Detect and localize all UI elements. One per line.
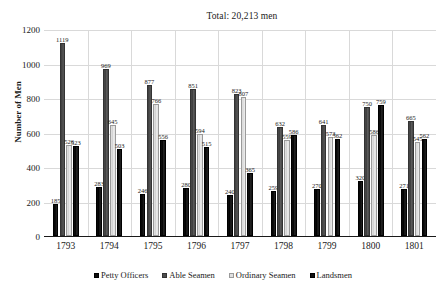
legend-label: Landsmen — [317, 270, 352, 280]
y-tick-label: 200 — [0, 198, 40, 208]
legend-item[interactable]: Landsmen — [310, 270, 352, 280]
bar-value-label: 632 — [275, 120, 285, 128]
bar[interactable]: 759 — [378, 105, 384, 236]
bar-value-label: 594 — [195, 127, 205, 135]
legend-swatch-icon — [162, 273, 167, 278]
bar[interactable]: 283 — [96, 187, 102, 236]
bar-value-label: 750 — [362, 100, 372, 108]
bar[interactable]: 766 — [153, 104, 159, 236]
bar-value-label: 641 — [319, 118, 329, 126]
bar-value-label: 645 — [108, 118, 118, 126]
bar-group-1800: 320750586759 — [349, 30, 393, 236]
bar[interactable]: 523 — [73, 146, 79, 236]
bar[interactable]: 515 — [204, 147, 210, 236]
legend-item[interactable]: Ordinary Seamen — [229, 270, 296, 280]
x-tick-label: 1801 — [405, 241, 424, 251]
bar[interactable]: 259 — [271, 191, 277, 236]
bar[interactable]: 545 — [415, 142, 421, 236]
y-tick-label: 1000 — [0, 60, 40, 70]
bar-group-1801: 271665545562 — [392, 30, 436, 236]
bar[interactable]: 750 — [364, 107, 370, 236]
bar[interactable]: 823 — [234, 94, 240, 236]
y-tick-label: 600 — [0, 129, 40, 139]
x-tick-label: 1795 — [143, 241, 162, 251]
bar[interactable]: 594 — [197, 134, 203, 236]
bar[interactable]: 559 — [284, 140, 290, 236]
legend-swatch-icon — [94, 273, 99, 278]
bar-chart: Total: 20,213 men Number of Men 02004006… — [0, 0, 446, 297]
bar-value-label: 365 — [245, 166, 255, 174]
bar-value-label: 877 — [145, 78, 155, 86]
bar-group-1797: 240823807365 — [218, 30, 262, 236]
y-tick-label: 0 — [0, 232, 40, 242]
bar-value-label: 1119 — [56, 36, 69, 44]
x-tick-label: 1796 — [187, 241, 206, 251]
bar-group-1794: 283969645503 — [88, 30, 132, 236]
bar-value-label: 562 — [420, 132, 430, 140]
bar[interactable]: 365 — [247, 173, 253, 236]
bar[interactable]: 270 — [314, 189, 320, 236]
bar-value-label: 969 — [101, 62, 111, 70]
bar[interactable]: 503 — [117, 149, 123, 236]
bar[interactable]: 271 — [401, 189, 407, 236]
bar-group-1796: 280851594515 — [175, 30, 219, 236]
legend-label: Petty Officers — [101, 270, 148, 280]
plot-area: 1851119526523283969645503246877766556280… — [44, 30, 436, 237]
x-tick-label: 1794 — [100, 241, 119, 251]
x-tick-label: 1799 — [318, 241, 337, 251]
bar-value-label: 807 — [239, 90, 249, 98]
bar[interactable]: 586 — [371, 135, 377, 236]
bar[interactable]: 641 — [321, 125, 327, 236]
bar[interactable]: 185 — [53, 204, 59, 236]
bar-group-1799: 270641573562 — [305, 30, 349, 236]
bar[interactable]: 632 — [277, 127, 283, 236]
x-tick-label: 1797 — [231, 241, 250, 251]
bar[interactable]: 586 — [291, 135, 297, 236]
legend-label: Ordinary Seamen — [236, 270, 296, 280]
bar-group-1793: 1851119526523 — [44, 30, 88, 236]
bar-value-label: 562 — [332, 132, 342, 140]
bar[interactable]: 562 — [422, 139, 428, 236]
bar[interactable]: 556 — [160, 140, 166, 236]
bar-value-label: 665 — [406, 114, 416, 122]
x-axis-ticks: 179317941795179617971798179918001801 — [44, 241, 436, 255]
bar[interactable]: 246 — [140, 194, 146, 236]
bar[interactable]: 969 — [103, 69, 109, 236]
x-tick-label: 1800 — [361, 241, 380, 251]
legend-swatch-icon — [310, 273, 315, 278]
bar[interactable]: 240 — [227, 195, 233, 236]
bar[interactable]: 526 — [66, 145, 72, 236]
bar-value-label: 523 — [71, 139, 81, 147]
chart-legend: Petty OfficersAble SeamenOrdinary Seamen… — [0, 270, 446, 280]
bar-value-label: 766 — [151, 97, 161, 105]
bar-group-1795: 246877766556 — [131, 30, 175, 236]
bar-value-label: 851 — [188, 82, 198, 90]
x-tick-label: 1793 — [56, 241, 75, 251]
bar[interactable]: 851 — [190, 89, 196, 236]
legend-item[interactable]: Petty Officers — [94, 270, 148, 280]
x-tick-label: 1798 — [274, 241, 293, 251]
bar-value-label: 586 — [289, 128, 299, 136]
bar-value-label: 503 — [115, 142, 125, 150]
y-tick-label: 1200 — [0, 25, 40, 35]
bar-value-label: 556 — [158, 133, 168, 141]
bar[interactable]: 320 — [358, 181, 364, 236]
legend-swatch-icon — [229, 273, 234, 278]
bar-value-label: 515 — [202, 140, 212, 148]
legend-item[interactable]: Able Seamen — [162, 270, 215, 280]
bar[interactable]: 280 — [183, 188, 189, 236]
bar[interactable]: 877 — [147, 85, 153, 236]
bar-group-1798: 259632559586 — [262, 30, 306, 236]
y-axis-ticks: 020040060080010001200 — [0, 30, 44, 237]
y-tick-label: 400 — [0, 163, 40, 173]
bar[interactable]: 562 — [335, 139, 341, 236]
bar-value-label: 759 — [376, 98, 386, 106]
chart-title: Total: 20,213 men — [0, 11, 446, 21]
legend-label: Able Seamen — [169, 270, 215, 280]
bar[interactable]: 573 — [328, 137, 334, 236]
y-tick-label: 800 — [0, 94, 40, 104]
